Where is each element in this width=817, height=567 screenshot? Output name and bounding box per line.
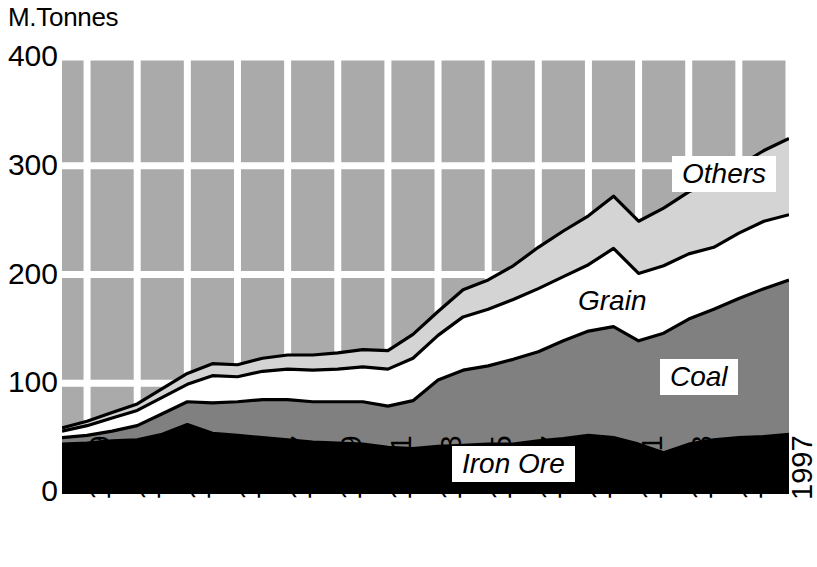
series-label-others: Others [672,156,776,192]
plot-svg [62,57,789,492]
x-axis-line [62,491,789,494]
x-axis-tick-1989: 1989 [587,435,616,500]
x-axis-tick-1975: 1975 [236,435,265,500]
x-axis-tick-1973: 1973 [186,435,215,500]
x-axis-tick-1969: 1969 [86,435,115,500]
x-axis-tick-1995: 1995 [738,435,767,500]
x-axis-tick-1971: 1971 [136,435,165,500]
plot-area [62,57,789,492]
series-label-coal: Coal [660,359,738,395]
y-axis-labels: 4003002001000 [0,0,58,567]
y-axis-tick-300: 300 [0,150,58,180]
x-axis-tick-1993: 1993 [688,435,717,500]
x-axis-tick-1977: 1977 [287,435,316,500]
y-axis-tick-100: 100 [0,367,58,397]
x-axis-tick-1997: 1997 [788,435,817,500]
x-axis-tick-1991: 1991 [638,435,667,500]
x-axis-tick-1979: 1979 [337,435,366,500]
y-axis-tick-200: 200 [0,259,58,289]
x-axis-tick-1981: 1981 [387,435,416,500]
x-axis-labels: 1969197119731975197719791981198319851987… [0,497,789,567]
series-label-grain: Grain [568,283,656,319]
y-axis-tick-400: 400 [0,41,58,71]
series-label-iron-ore: Iron Ore [452,446,575,482]
